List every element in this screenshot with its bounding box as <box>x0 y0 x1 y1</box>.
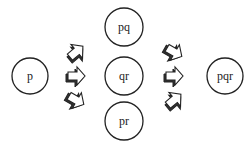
right-arrows <box>160 39 188 115</box>
node-pqr-label: pqr <box>217 69 233 83</box>
arrow-up-right-icon <box>63 39 90 67</box>
arrow-up-right-icon <box>161 87 188 115</box>
node-qr: qr <box>105 57 143 95</box>
node-qr-label: qr <box>119 69 129 83</box>
node-pqr: pqr <box>207 58 243 94</box>
node-pr: pr <box>105 102 143 140</box>
arrow-right-icon <box>66 67 85 87</box>
node-p-label: p <box>27 69 33 83</box>
arrow-down-right-icon <box>160 39 186 66</box>
node-pr-label: pr <box>119 114 129 128</box>
node-p: p <box>12 58 48 94</box>
lattice-diagram: p pq qr pr pqr <box>0 0 246 147</box>
node-pq: pq <box>105 8 143 46</box>
arrow-down-right-icon <box>62 87 88 114</box>
node-pq-label: pq <box>118 20 130 34</box>
left-arrows <box>62 39 90 114</box>
arrow-right-icon <box>164 67 183 87</box>
